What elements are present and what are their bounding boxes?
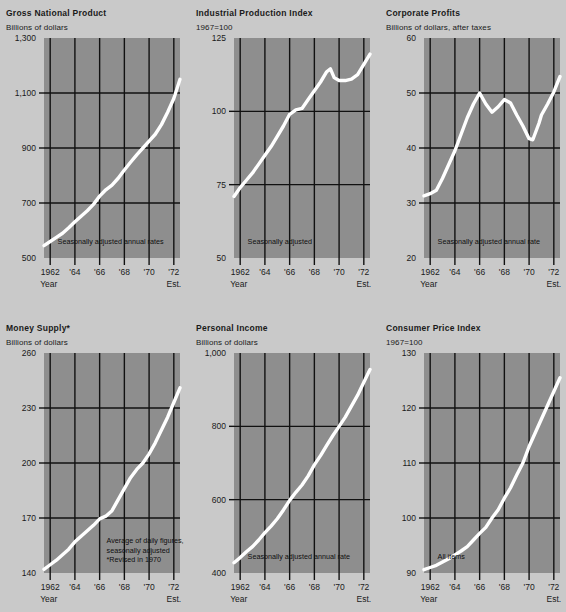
panel-units: Billions of dollars <box>6 338 190 347</box>
x-tick-label: '72 <box>358 267 369 277</box>
panel-units: Billions of dollars <box>196 338 380 347</box>
panel-personal-income: Personal Income Billions of dollars 4006… <box>196 323 380 612</box>
y-tick-label: 110 <box>402 458 416 468</box>
panel-money-supply: Money Supply* Billions of dollars 140170… <box>6 323 190 612</box>
y-tick-label: 500 <box>22 253 36 263</box>
x-tick-label: '66 <box>284 582 295 592</box>
x-axis-name: Year <box>230 594 247 604</box>
panel-units: 1967=100 <box>196 23 380 32</box>
x-axis-name: Year <box>420 279 437 289</box>
y-tick-label: 230 <box>22 403 36 413</box>
x-tick-label: '70 <box>144 267 155 277</box>
plot-area-wrapper: 1401702002302601962'64'66'68'70'72YearEs… <box>6 347 190 612</box>
x-tick-label: '68 <box>499 267 510 277</box>
y-tick-label: 100 <box>402 513 416 523</box>
panel-corporate-profits: Corporate Profits Billions of dollars, a… <box>386 8 566 298</box>
x-axis-name: Year <box>420 594 437 604</box>
x-tick-label: '68 <box>119 582 130 592</box>
x-tick-label: 1962 <box>41 267 60 277</box>
chart-annotation: *Revised in 1970 <box>107 555 161 564</box>
y-tick-label: 700 <box>22 198 36 208</box>
y-tick-label: 125 <box>212 33 226 43</box>
panel-industrial-production-index: Industrial Production Index 1967=100 507… <box>196 8 380 298</box>
y-tick-label: 200 <box>22 458 36 468</box>
x-tick-label: '66 <box>474 582 485 592</box>
y-tick-label: 60 <box>407 33 417 43</box>
x-tick-label: '64 <box>69 582 80 592</box>
x-tick-label: '72 <box>358 582 369 592</box>
plot-area-wrapper: 901001101201301962'64'66'68'70'72YearEst… <box>386 347 566 612</box>
x-tick-label: '64 <box>259 582 270 592</box>
y-tick-label: 40 <box>407 143 417 153</box>
x-tick-label: 1962 <box>231 582 250 592</box>
y-tick-label: 130 <box>402 348 416 358</box>
x-tick-label: '66 <box>94 582 105 592</box>
x-tick-label: 1962 <box>231 267 250 277</box>
y-tick-label: 75 <box>217 180 227 190</box>
x-axis-name: Year <box>40 279 57 289</box>
x-tick-label: '68 <box>119 267 130 277</box>
panel-title: Corporate Profits <box>386 8 566 18</box>
y-tick-label: 20 <box>407 253 417 263</box>
y-tick-label: 400 <box>212 568 226 578</box>
chart-annotation: seasonally adjusted <box>107 546 170 555</box>
y-tick-label: 50 <box>407 88 417 98</box>
x-tick-label: '68 <box>499 582 510 592</box>
x-tick-label: '70 <box>334 582 345 592</box>
chart-svg-industrial-production-index: 50751001251962'64'66'68'70'72YearEst.Sea… <box>196 32 380 298</box>
chart-annotation: Average of daily figures, <box>107 536 184 545</box>
x-tick-label: '72 <box>168 267 179 277</box>
x-axis-est-label: Est. <box>546 279 561 289</box>
chart-annotation: Seasonally adjusted <box>248 237 312 246</box>
y-tick-label: 1,000 <box>205 348 227 358</box>
chart-annotation: Seasonally adjusted annual rates <box>58 237 164 246</box>
panel-gross-national-product: Gross National Product Billions of dolla… <box>6 8 190 298</box>
x-axis-name: Year <box>40 594 57 604</box>
chart-svg-personal-income: 4006008001,0001962'64'66'68'70'72YearEst… <box>196 347 380 612</box>
chart-svg-gross-national-product: 5007009001,1001,3001962'64'66'68'70'72Ye… <box>6 32 190 298</box>
y-tick-label: 800 <box>212 421 226 431</box>
x-tick-label: '70 <box>524 267 535 277</box>
x-tick-label: '70 <box>144 582 155 592</box>
y-tick-label: 90 <box>407 568 417 578</box>
x-tick-label: 1962 <box>421 267 440 277</box>
x-tick-label: '72 <box>548 267 559 277</box>
x-tick-label: '72 <box>168 582 179 592</box>
panel-consumer-price-index: Consumer Price Index 1967=100 9010011012… <box>386 323 566 612</box>
plot-area-wrapper: 5007009001,1001,3001962'64'66'68'70'72Ye… <box>6 32 190 298</box>
panel-units: Billions of dollars, after taxes <box>386 23 566 32</box>
y-tick-label: 140 <box>22 568 36 578</box>
panel-title: Personal Income <box>196 323 380 333</box>
panel-title: Consumer Price Index <box>386 323 566 333</box>
y-tick-label: 30 <box>407 198 417 208</box>
x-tick-label: '70 <box>334 267 345 277</box>
panel-title: Money Supply* <box>6 323 190 333</box>
panel-title: Gross National Product <box>6 8 190 18</box>
x-axis-est-label: Est. <box>356 594 371 604</box>
x-tick-label: 1962 <box>421 582 440 592</box>
chart-svg-corporate-profits: 20304050601962'64'66'68'70'72YearEst.Sea… <box>386 32 566 298</box>
x-tick-label: '64 <box>69 267 80 277</box>
x-tick-label: '66 <box>94 267 105 277</box>
chart-annotation: All items <box>438 552 466 561</box>
x-tick-label: '68 <box>309 267 320 277</box>
chart-annotation: Seasonally adjusted annual rate <box>438 237 540 246</box>
x-tick-label: '70 <box>524 582 535 592</box>
chart-svg-money-supply: 1401702002302601962'64'66'68'70'72YearEs… <box>6 347 190 612</box>
y-tick-label: 1,100 <box>15 88 37 98</box>
plot-area-wrapper: 4006008001,0001962'64'66'68'70'72YearEst… <box>196 347 380 612</box>
x-tick-label: 1962 <box>41 582 60 592</box>
x-axis-name: Year <box>230 279 247 289</box>
y-tick-label: 1,300 <box>15 33 37 43</box>
panel-units: 1967=100 <box>386 338 566 347</box>
y-tick-label: 100 <box>212 106 226 116</box>
panel-title: Industrial Production Index <box>196 8 380 18</box>
y-tick-label: 900 <box>22 143 36 153</box>
chart-svg-consumer-price-index: 901001101201301962'64'66'68'70'72YearEst… <box>386 347 566 612</box>
x-axis-est-label: Est. <box>166 279 181 289</box>
x-axis-est-label: Est. <box>356 279 371 289</box>
y-tick-label: 170 <box>22 513 36 523</box>
y-tick-label: 260 <box>22 348 36 358</box>
y-tick-label: 600 <box>212 495 226 505</box>
